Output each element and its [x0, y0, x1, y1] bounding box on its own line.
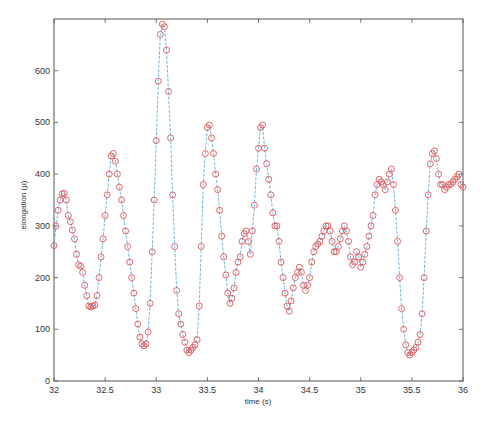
x-axis-tick-labels: 3232.53333.53434.53535.536 [49, 385, 468, 395]
y-tick-label: 600 [35, 66, 50, 76]
y-axis-tick-labels: 0100200300400500600 [35, 66, 50, 386]
x-tick-label: 36 [458, 385, 468, 395]
y-tick-label: 400 [35, 169, 50, 179]
x-tick-label: 32.5 [96, 385, 114, 395]
x-tick-label: 35 [356, 385, 366, 395]
y-axis-label: elongation (μ) [19, 180, 28, 229]
x-tick-label: 35.5 [403, 385, 421, 395]
y-tick-label: 100 [35, 324, 50, 334]
x-tick-label: 34.5 [301, 385, 319, 395]
y-tick-label: 300 [35, 221, 50, 231]
y-tick-label: 500 [35, 117, 50, 127]
y-tick-label: 0 [45, 376, 50, 386]
x-tick-label: 33.5 [199, 385, 217, 395]
y-tick-label: 200 [35, 273, 50, 283]
x-tick-label: 33 [151, 385, 161, 395]
line-chart: 3232.53333.53434.53535.536 0100200300400… [0, 0, 495, 430]
x-tick-label: 32 [49, 385, 59, 395]
x-tick-label: 34 [253, 385, 263, 395]
x-axis-label: time (s) [245, 397, 272, 406]
